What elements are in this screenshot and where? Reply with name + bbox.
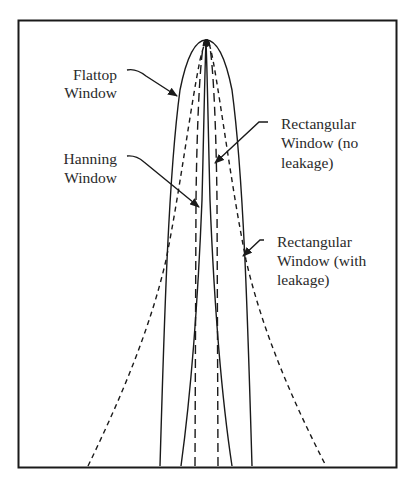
peak-point (204, 39, 210, 47)
svg-text:leakage): leakage) (281, 154, 334, 172)
arrow-hanning (127, 156, 199, 207)
label-hanning: Hanning Window (64, 150, 118, 186)
svg-text:Hanning: Hanning (64, 150, 118, 167)
label-rect-with-leakage: Rectangular Window (with leakage) (277, 233, 367, 289)
svg-text:Window: Window (64, 169, 118, 186)
curve-hanning (181, 42, 232, 466)
label-rect-no-leakage: Rectangular Window (no leakage) (281, 115, 359, 172)
svg-text:Window (no: Window (no (281, 134, 359, 152)
svg-text:Window: Window (64, 84, 118, 101)
curve-flattop (160, 40, 252, 466)
svg-text:Window (with: Window (with (277, 252, 367, 270)
arrow-rect-with-leakage (243, 240, 264, 256)
svg-text:leakage): leakage) (277, 271, 330, 289)
svg-text:Flattop: Flattop (73, 66, 117, 83)
arrow-rect-no-leakage (215, 122, 268, 163)
svg-text:Rectangular: Rectangular (277, 233, 353, 250)
curve-rectangular-no-leakage (195, 42, 218, 466)
svg-text:Rectangular: Rectangular (281, 115, 357, 132)
window-spectra-diagram: Flattop Window Hanning Window Rectangula… (0, 0, 408, 478)
label-flattop: Flattop Window (64, 66, 118, 101)
arrow-flattop (127, 70, 177, 96)
